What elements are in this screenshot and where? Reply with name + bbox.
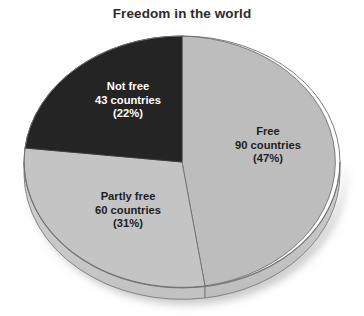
pie-chart-graphic (0, 0, 364, 316)
pie-slice-free (182, 36, 335, 286)
pie-slice-partly-free (24, 148, 205, 287)
pie-slice-not-free (25, 36, 182, 162)
pie-top-face (24, 36, 340, 288)
pie-chart-figure: Freedom in the world (0, 0, 364, 316)
